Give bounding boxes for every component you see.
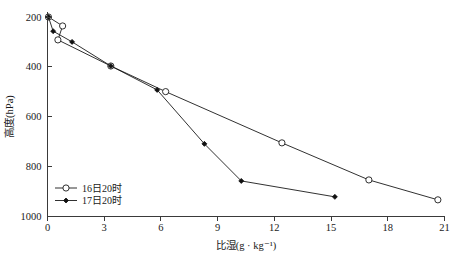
series-line <box>48 17 334 197</box>
legend-entry: 16日20时 <box>55 183 122 194</box>
x-tick-label: 0 <box>45 222 50 233</box>
series-layer <box>45 14 441 203</box>
legend-marker <box>64 198 69 203</box>
y-tick-label: 600 <box>26 111 42 122</box>
legend-entry: 17日20时 <box>55 195 122 206</box>
series-marker <box>163 89 169 95</box>
chart-legend: 16日20时17日20时 <box>55 183 122 207</box>
data-series <box>46 15 337 200</box>
x-tick-label: 15 <box>326 222 337 233</box>
series-marker <box>366 177 372 183</box>
series-line <box>48 17 437 200</box>
legend-label: 16日20时 <box>82 183 122 194</box>
x-axis-title: 比湿(g · kg⁻¹) <box>216 239 277 252</box>
y-axis-title-group: 高度(hPa) <box>3 95 16 138</box>
legend-marker <box>63 185 69 191</box>
chart-figure: 0369121518212004006008001000比湿(g · kg⁻¹)… <box>0 0 458 256</box>
y-axis-title: 高度(hPa) <box>3 95 16 138</box>
series-marker <box>51 29 56 34</box>
data-series <box>45 14 441 203</box>
series-marker <box>332 194 337 199</box>
x-tick-label: 18 <box>383 222 394 233</box>
x-tick-label: 9 <box>215 222 220 233</box>
series-marker <box>279 140 285 146</box>
series-marker <box>55 37 61 43</box>
humidity-profile-chart: 0369121518212004006008001000比湿(g · kg⁻¹)… <box>0 0 458 256</box>
x-tick-label: 6 <box>158 222 163 233</box>
x-tick-label: 12 <box>269 222 280 233</box>
x-tick-label: 21 <box>439 222 450 233</box>
series-marker <box>60 23 66 29</box>
y-tick-label: 400 <box>26 61 42 72</box>
y-tick-label: 1000 <box>21 211 42 222</box>
y-tick-label: 200 <box>26 12 42 23</box>
legend-label: 17日20时 <box>82 195 122 206</box>
series-marker <box>70 39 75 44</box>
x-tick-label: 3 <box>102 222 107 233</box>
series-marker <box>435 197 441 203</box>
y-tick-label: 800 <box>26 161 42 172</box>
